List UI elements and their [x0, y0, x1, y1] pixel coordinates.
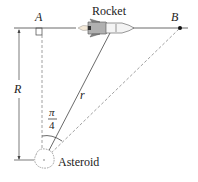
rocket-icon [78, 19, 134, 37]
rocket-label: Rocket [92, 4, 127, 18]
rocket-asteroid-diagram: A B Rocket R r π 4 Asteroid [0, 0, 198, 182]
angle-numerator-label: π [49, 106, 55, 118]
asteroid-label: Asteroid [58, 155, 99, 169]
angle-arc [42, 136, 62, 141]
point-b-label: B [171, 10, 179, 24]
arrowhead-down-icon [18, 156, 21, 160]
distance-line-r [44, 33, 110, 160]
angle-denominator-label: 4 [49, 119, 55, 131]
arrowhead-up-icon [18, 29, 21, 33]
asteroid-icon [35, 149, 54, 168]
point-b-dot [178, 26, 182, 30]
dashed-line-to-b [44, 28, 180, 160]
distance-r-lower-label: r [80, 88, 85, 102]
point-a-label: A [34, 10, 43, 24]
right-angle-marker [36, 28, 42, 35]
distance-r-upper-label: R [13, 82, 22, 96]
